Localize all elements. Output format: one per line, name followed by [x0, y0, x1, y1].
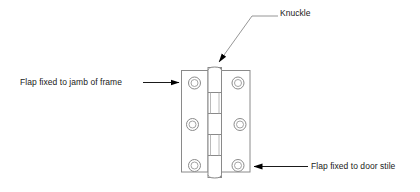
screw-hole [234, 119, 246, 131]
label-flap-jamb: Flap fixed to jamb of frame [20, 78, 122, 87]
screw-hole [189, 160, 201, 172]
screw-hole [232, 77, 244, 89]
label-flap-door-stile: Flap fixed to door stile [311, 162, 395, 171]
screw-hole [232, 160, 244, 172]
label-knuckle: Knuckle [280, 9, 311, 18]
screw-hole [189, 77, 201, 89]
diagram-canvas: Flap fixed to jamb of frame Knuckle Flap… [0, 0, 420, 192]
knuckle [208, 67, 222, 178]
leader-line-knuckle [219, 16, 278, 62]
screw-hole [187, 119, 199, 131]
